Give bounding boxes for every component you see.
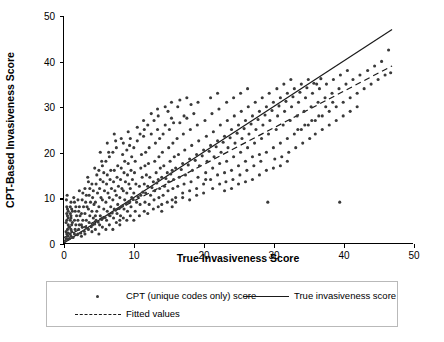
scatter-point — [129, 187, 132, 190]
scatter-point — [94, 214, 97, 217]
scatter-point — [90, 182, 93, 185]
scatter-point — [223, 171, 226, 174]
scatter-point — [258, 153, 261, 156]
scatter-point — [389, 71, 392, 74]
scatter-point — [178, 98, 181, 101]
scatter-point — [338, 201, 341, 204]
scatter-point — [219, 123, 222, 126]
scatter-point — [337, 87, 340, 90]
scatter-point — [169, 160, 172, 163]
scatter-point — [143, 210, 146, 213]
scatter-point — [293, 87, 296, 90]
y-tick — [60, 244, 64, 245]
scatter-point — [196, 176, 199, 179]
scatter-point — [310, 105, 313, 108]
scatter-point — [95, 173, 98, 176]
scatter-point — [366, 69, 369, 72]
scatter-point — [162, 194, 165, 197]
scatter-point — [267, 132, 270, 135]
scatter-point — [204, 178, 207, 181]
scatter-point — [246, 146, 249, 149]
scatter-point — [187, 163, 190, 166]
scatter-point — [102, 180, 105, 183]
scatter-point — [239, 151, 242, 154]
scatter-point — [127, 130, 130, 133]
scatter-point — [95, 182, 98, 185]
scatter-point — [111, 198, 114, 201]
scatter-point — [65, 212, 68, 215]
scatter-point — [250, 123, 253, 126]
scatter-point — [98, 223, 101, 226]
scatter-point — [223, 189, 226, 192]
scatter-point — [232, 155, 235, 158]
scatter-point — [185, 96, 188, 99]
scatter-point — [107, 213, 110, 216]
scatter-point — [317, 101, 320, 104]
scatter-point — [218, 182, 221, 185]
scatter-point — [148, 176, 151, 179]
scatter-point — [148, 203, 151, 206]
scatter-point — [125, 202, 128, 205]
scatter-point — [162, 132, 165, 135]
scatter-point — [174, 196, 177, 199]
scatter-point — [129, 137, 132, 140]
scatter-point — [222, 141, 225, 144]
scatter-point — [139, 194, 142, 197]
scatter-point — [108, 196, 111, 199]
scatter-point — [111, 211, 114, 214]
scatter-point — [331, 101, 334, 104]
x-tick — [64, 244, 65, 248]
scatter-point — [77, 210, 80, 213]
scatter-point — [161, 151, 164, 154]
scatter-point — [167, 146, 170, 149]
scatter-point — [265, 169, 268, 172]
scatter-point — [122, 207, 125, 210]
scatter-point — [129, 214, 132, 217]
x-tick — [134, 244, 135, 248]
scatter-point — [258, 173, 261, 176]
scatter-point — [166, 110, 169, 113]
scatter-point — [284, 100, 287, 103]
scatter-point — [229, 136, 232, 139]
scatter-point — [280, 155, 283, 158]
scatter-point — [380, 60, 383, 63]
scatter-point — [115, 146, 118, 149]
scatter-point — [160, 203, 163, 206]
scatter-point — [104, 201, 107, 204]
scatter-point — [195, 153, 198, 156]
scatter-point — [296, 114, 299, 117]
scatter-point — [230, 169, 233, 172]
scatter-point — [146, 212, 149, 215]
scatter-point — [233, 142, 236, 145]
scatter-point — [128, 200, 131, 203]
scatter-point — [184, 173, 187, 176]
scatter-point — [268, 119, 271, 122]
scatter-point — [90, 230, 93, 233]
scatter-point — [171, 169, 174, 172]
scatter-point — [259, 160, 262, 163]
scatter-point — [298, 91, 301, 94]
scatter-point — [157, 114, 160, 117]
x-tick — [204, 244, 205, 248]
scatter-point — [143, 182, 146, 185]
scatter-point — [81, 198, 84, 201]
scatter-point — [272, 167, 275, 170]
y-tick-label: 30 — [44, 102, 55, 113]
scatter-point — [247, 132, 250, 135]
y-tick-label: 50 — [44, 11, 55, 22]
scatter-point — [297, 101, 300, 104]
legend-marker-dot — [75, 290, 121, 302]
scatter-point — [109, 178, 112, 181]
scatter-point — [203, 119, 206, 122]
scatter-point — [134, 182, 137, 185]
scatter-point — [370, 83, 373, 86]
scatter-point — [261, 123, 264, 126]
scatter-point — [94, 228, 97, 231]
scatter-point — [205, 135, 208, 138]
scatter-point — [275, 87, 278, 90]
scatter-point — [261, 96, 264, 99]
scatter-point — [158, 137, 161, 140]
scatter-point — [178, 176, 181, 179]
scatter-point — [72, 196, 75, 199]
scatter-point — [192, 112, 195, 115]
